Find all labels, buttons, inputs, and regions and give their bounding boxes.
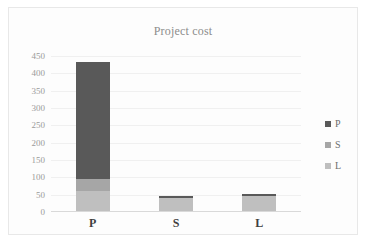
chart-title: Project cost (9, 24, 357, 39)
legend-label: P (335, 119, 341, 129)
stacked-bar[interactable] (242, 194, 276, 212)
x-axis-category-labels: PSL (51, 216, 301, 236)
chart-legend: PSL (325, 113, 365, 176)
stacked-bar[interactable] (76, 62, 110, 212)
bar-segment-p[interactable] (76, 62, 110, 180)
x-axis-label-l: L (218, 216, 301, 231)
y-axis-tick-labels: 050100150200250300350400450 (9, 56, 45, 212)
y-axis-tick-label: 450 (11, 52, 45, 61)
y-axis-tick-label: 250 (11, 121, 45, 130)
x-axis-label-s: S (134, 216, 217, 231)
y-axis-tick-label: 200 (11, 139, 45, 148)
bar-segment-s[interactable] (76, 179, 110, 191)
y-axis-tick-label: 350 (11, 87, 45, 96)
legend-item-l[interactable]: L (325, 155, 365, 176)
x-axis-line (51, 211, 301, 212)
legend-item-p[interactable]: P (325, 113, 365, 134)
bar-slot (134, 56, 217, 212)
bar-segment-l[interactable] (242, 196, 276, 212)
x-axis-label-p: P (51, 216, 134, 231)
legend-swatch-icon (325, 163, 331, 169)
chart-container: Project cost 050100150200250300350400450… (8, 7, 358, 235)
y-axis-tick-label: 400 (11, 69, 45, 78)
legend-label: L (335, 161, 341, 171)
stacked-bar[interactable] (159, 196, 193, 212)
legend-swatch-icon (325, 142, 331, 148)
y-axis-tick-label: 300 (11, 104, 45, 113)
y-axis-tick-label: 150 (11, 156, 45, 165)
plot-area (51, 56, 301, 212)
bar-segment-l[interactable] (76, 191, 110, 212)
bar-slot (51, 56, 134, 212)
y-axis-tick-label: 100 (11, 173, 45, 182)
bar-segment-l[interactable] (159, 198, 193, 212)
bar-slot (218, 56, 301, 212)
y-axis-tick-label: 0 (11, 208, 45, 217)
legend-item-s[interactable]: S (325, 134, 365, 155)
legend-swatch-icon (325, 121, 331, 127)
legend-label: S (335, 140, 341, 150)
y-axis-tick-label: 50 (11, 191, 45, 200)
